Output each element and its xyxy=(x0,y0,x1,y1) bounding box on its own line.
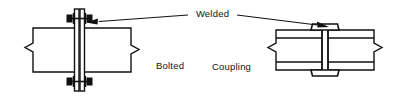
bolted-right-beam xyxy=(83,28,140,72)
leader-line-right xyxy=(237,15,317,25)
bolted-left-beam xyxy=(25,28,77,72)
bolted-splice-plate-right xyxy=(80,9,85,91)
label-bolted: Bolted xyxy=(156,60,184,71)
coupling-right-beam xyxy=(328,30,382,70)
coupling-bottom-plate xyxy=(311,70,339,76)
bolted-splice-plate-left xyxy=(75,9,80,91)
coupling-left-beam xyxy=(268,30,322,70)
bolted-connection-detail xyxy=(25,9,139,91)
bolt-nut-top-left xyxy=(67,15,72,22)
label-coupling: Coupling xyxy=(212,61,251,72)
bolt-nut-bottom-left xyxy=(67,78,72,85)
leader-line-left xyxy=(99,15,188,22)
diagram-canvas: Welded Bolted Coupling xyxy=(0,0,399,99)
coupling-connection-detail xyxy=(268,24,382,76)
engineering-diagram: Welded Bolted Coupling xyxy=(0,0,399,99)
bolt-nut-bottom-right xyxy=(87,78,92,85)
label-welded: Welded xyxy=(196,8,229,19)
